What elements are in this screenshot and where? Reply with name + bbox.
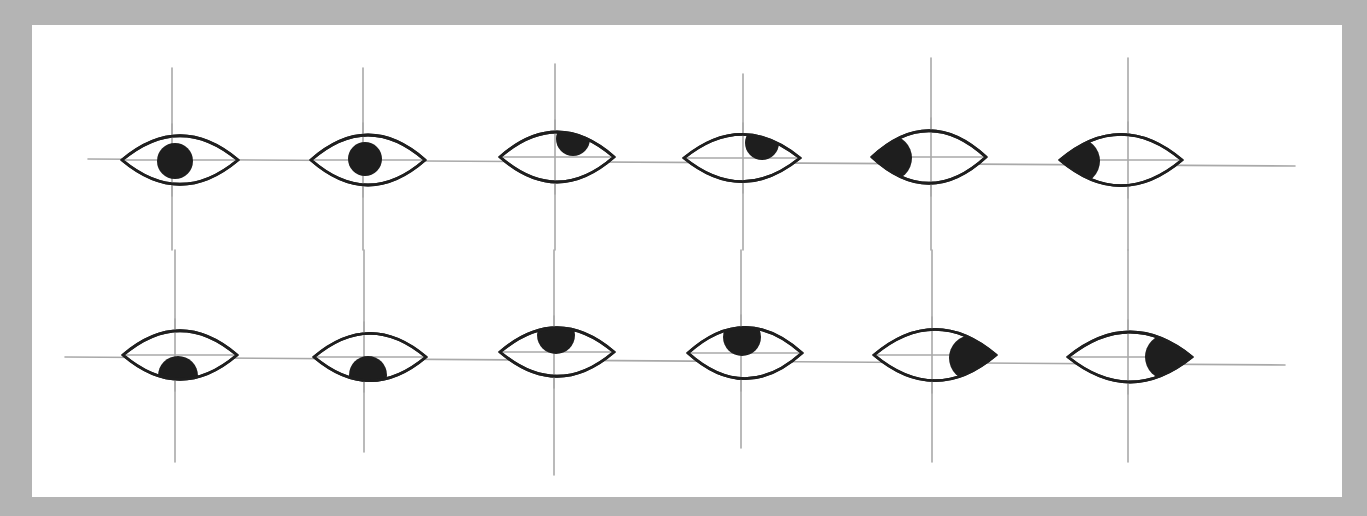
pupil-icon — [537, 316, 575, 354]
pupil-icon — [723, 318, 761, 356]
eye-icon-up-right — [684, 74, 800, 250]
eye-row-2 — [65, 250, 1285, 475]
eye-icon-up — [500, 250, 614, 475]
eye-icon-left — [866, 58, 986, 250]
pupil-icon — [348, 142, 382, 176]
pupil-icon — [349, 356, 387, 394]
eye-gaze-diagram — [0, 0, 1367, 516]
eye-icon-right — [1068, 250, 1192, 462]
pupil-icon — [949, 335, 995, 381]
pupil-icon — [157, 143, 193, 179]
eye-icon-up — [688, 250, 802, 448]
eye-icon-right — [874, 250, 996, 462]
eye-row-1 — [88, 58, 1295, 250]
eye-icon-down — [314, 250, 426, 452]
eye-icon-down — [123, 250, 237, 462]
eye-icon-up-right — [500, 64, 614, 250]
eye-icon-center — [122, 68, 238, 250]
eye-icon-center — [311, 68, 425, 250]
eye-icon-left — [1054, 58, 1182, 250]
